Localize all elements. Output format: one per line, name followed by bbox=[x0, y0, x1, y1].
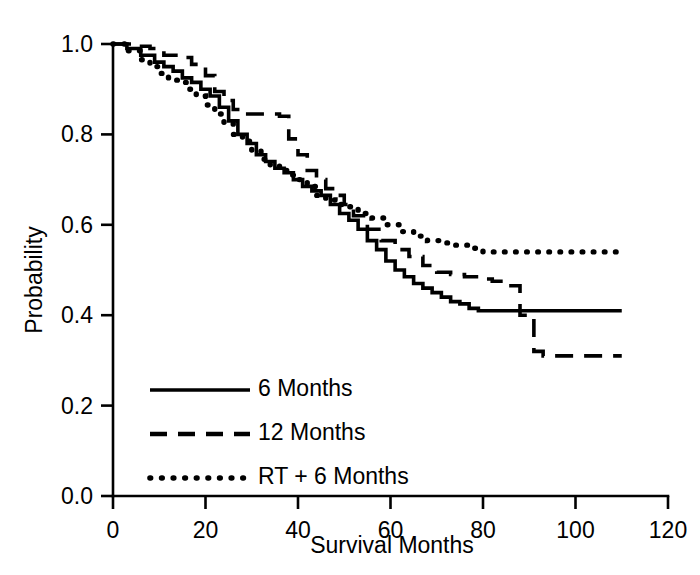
x-tick-label: 100 bbox=[556, 517, 594, 543]
plot-area: 0.00.20.40.60.81.0 020406080100120 6 Mon… bbox=[0, 0, 700, 575]
y-tick-label: 0.4 bbox=[61, 302, 93, 328]
x-tick-label: 0 bbox=[107, 517, 120, 543]
series-line-solid bbox=[113, 44, 622, 311]
legend-label: 6 Months bbox=[258, 375, 353, 401]
series-line-dotted bbox=[113, 44, 622, 252]
y-tick-label: 0.2 bbox=[61, 393, 93, 419]
x-tick-label: 120 bbox=[649, 517, 687, 543]
data-series-group bbox=[113, 44, 622, 356]
x-tick-label: 80 bbox=[470, 517, 496, 543]
x-tick-label: 40 bbox=[285, 517, 311, 543]
y-tick-label: 1.0 bbox=[61, 31, 93, 57]
y-tick-label: 0.0 bbox=[61, 483, 93, 509]
x-axis-title: Survival Months bbox=[310, 532, 474, 558]
x-tick-label: 20 bbox=[193, 517, 219, 543]
y-axis-ticks: 0.00.20.40.60.81.0 bbox=[61, 31, 113, 509]
y-axis-title: Probability bbox=[21, 226, 47, 334]
legend-label: 12 Months bbox=[258, 419, 365, 445]
y-tick-label: 0.6 bbox=[61, 212, 93, 238]
chart-legend: 6 Months12 MonthsRT + 6 Months bbox=[150, 375, 409, 489]
survival-curve-chart: 0.00.20.40.60.81.0 020406080100120 6 Mon… bbox=[0, 0, 700, 575]
y-tick-label: 0.8 bbox=[61, 121, 93, 147]
legend-label: RT + 6 Months bbox=[258, 463, 409, 489]
